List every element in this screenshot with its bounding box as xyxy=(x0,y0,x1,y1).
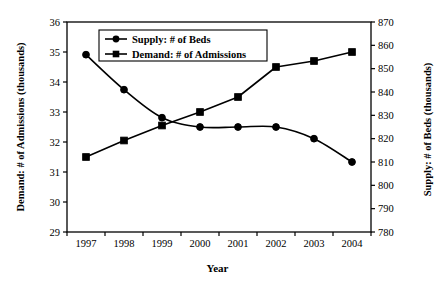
data-point-demand[interactable] xyxy=(349,49,356,56)
left-axis-tick-label: 30 xyxy=(50,197,61,208)
left-axis-tick-label: 35 xyxy=(50,47,61,58)
data-point-demand[interactable] xyxy=(83,154,90,161)
data-point-demand[interactable] xyxy=(311,58,318,65)
chart-container: Demand: # of Admissions (thousands) Supp… xyxy=(0,0,435,287)
left-axis-tick-label: 32 xyxy=(50,137,61,148)
x-axis-tick-label: 2000 xyxy=(190,238,211,249)
data-point-supply[interactable] xyxy=(273,124,280,131)
x-axis-tick-label: 2003 xyxy=(304,238,325,249)
right-axis-tick-label: 870 xyxy=(378,17,394,28)
left-axis-tick-label: 31 xyxy=(50,167,61,178)
legend-label-1: Demand: # of Admissions xyxy=(132,49,246,60)
right-axis-tick-label: 860 xyxy=(378,40,394,51)
x-axis-tick-label: 2004 xyxy=(342,238,364,249)
right-axis-tick-label: 790 xyxy=(378,203,394,214)
data-point-supply[interactable] xyxy=(159,114,166,121)
x-axis-tick-label: 1998 xyxy=(114,238,135,249)
data-point-demand[interactable] xyxy=(273,64,280,71)
left-axis-tick-label: 34 xyxy=(50,77,61,88)
right-axis-tick-label: 800 xyxy=(378,180,394,191)
data-point-supply[interactable] xyxy=(349,159,356,166)
left-axis-tick-label: 33 xyxy=(50,107,61,118)
right-axis-tick-label: 830 xyxy=(378,110,394,121)
x-axis-tick-label: 1999 xyxy=(152,238,173,249)
data-point-supply[interactable] xyxy=(311,135,318,142)
right-axis-tick-label: 780 xyxy=(378,227,394,238)
legend-label-0: Supply: # of Beds xyxy=(132,34,210,45)
data-point-supply[interactable] xyxy=(197,124,204,131)
data-point-demand[interactable] xyxy=(235,94,242,101)
legend-marker-square-icon xyxy=(113,51,120,58)
data-point-demand[interactable] xyxy=(121,137,128,144)
left-axis-tick-label: 29 xyxy=(50,227,61,238)
data-point-demand[interactable] xyxy=(197,109,204,116)
right-axis-tick-label: 850 xyxy=(378,63,394,74)
x-axis-tick-label: 1997 xyxy=(76,238,97,249)
left-axis-tick-label: 36 xyxy=(50,17,61,28)
right-axis-tick-label: 840 xyxy=(378,87,394,98)
x-axis-tick-label: 2001 xyxy=(228,238,249,249)
right-axis-tick-label: 810 xyxy=(378,157,394,168)
x-axis-tick-label: 2002 xyxy=(266,238,287,249)
series-line-0 xyxy=(86,55,352,162)
right-axis-tick-label: 820 xyxy=(378,133,394,144)
data-point-supply[interactable] xyxy=(121,86,128,93)
data-point-supply[interactable] xyxy=(83,51,90,58)
data-point-demand[interactable] xyxy=(159,122,166,129)
plot-area: 2930313233343536780790800810820830840850… xyxy=(0,0,435,287)
data-point-supply[interactable] xyxy=(235,124,242,131)
legend-marker-circle-icon xyxy=(113,36,120,43)
